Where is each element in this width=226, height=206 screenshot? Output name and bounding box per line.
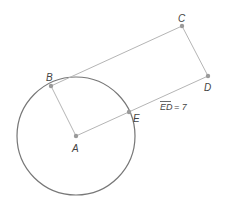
segment-cd: [182, 26, 208, 76]
point-a: [74, 134, 78, 138]
segment-ad: [76, 76, 208, 136]
segment-value: = 7: [174, 102, 188, 112]
label-d: D: [204, 82, 211, 93]
segment-name: ED: [160, 102, 173, 112]
label-e: E: [133, 113, 140, 124]
geometry-diagram: A B C D E ED = 7: [0, 0, 226, 206]
point-e: [127, 110, 131, 114]
segment-length-annotation: ED = 7: [160, 102, 188, 113]
segment-bc: [51, 26, 182, 86]
point-c: [180, 24, 184, 28]
point-b: [49, 84, 53, 88]
point-d: [206, 74, 210, 78]
label-c: C: [178, 13, 186, 24]
segment-ab: [51, 86, 76, 136]
label-b: B: [46, 72, 53, 83]
label-a: A: [71, 143, 79, 154]
